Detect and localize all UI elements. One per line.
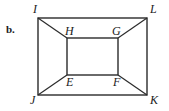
inner-rectangle-EFGH [67,38,118,75]
vertex-label-L: L [150,3,157,15]
figure-container: b. I L J K H G E F [0,0,169,111]
vertex-label-J: J [30,94,36,106]
edge-I-H [38,18,67,38]
edge-J-E [38,75,67,95]
vertex-label-G: G [112,25,121,37]
vertex-label-H: H [65,25,74,37]
edge-K-F [118,75,147,95]
edge-L-G [118,18,147,38]
vertex-label-I: I [33,3,37,15]
vertex-label-E: E [66,76,74,88]
rectangular-prism-diagram [0,0,169,111]
vertex-label-K: K [150,94,158,106]
vertex-label-F: F [113,76,121,88]
